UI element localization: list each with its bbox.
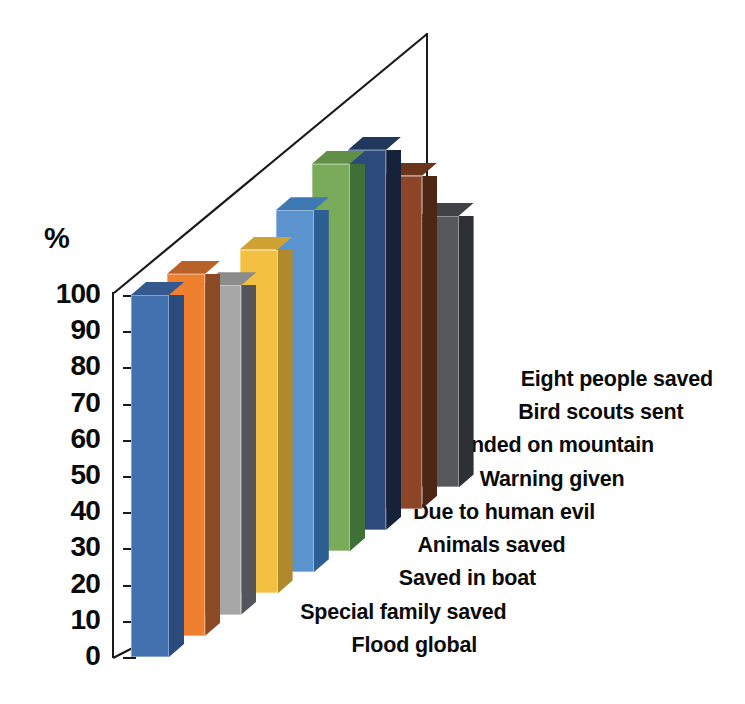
bar-top-face xyxy=(167,261,220,274)
bar-side-face xyxy=(169,295,184,657)
category-label: Due to human evil xyxy=(413,500,595,525)
bar-side-face xyxy=(314,210,329,572)
y-axis-tick-label: 50 xyxy=(22,461,100,489)
y-axis-tick-label: 40 xyxy=(22,497,100,525)
category-label: Eight people saved xyxy=(521,367,713,392)
y-axis-tick-label: 20 xyxy=(22,570,100,598)
bar-side-face xyxy=(459,216,474,488)
bar-front-face xyxy=(131,295,169,657)
bar-top-face xyxy=(348,137,401,150)
bar-side-face xyxy=(241,285,256,614)
category-label: Special family saved xyxy=(300,600,506,625)
category-label: Animals saved xyxy=(418,533,566,558)
category-label: Saved in boat xyxy=(399,566,536,591)
y-axis-tick-mark xyxy=(123,657,136,659)
bar-side-face xyxy=(278,250,293,594)
bar-side-face xyxy=(386,150,401,530)
y-axis-tick-group: 1009080706050403020100 xyxy=(22,0,100,704)
y-axis-tick-label: 100 xyxy=(22,280,100,308)
category-label: Warning given xyxy=(480,467,625,492)
bar-side-face xyxy=(205,274,220,636)
bar-side-face xyxy=(422,176,437,509)
y-axis-tick-label: 60 xyxy=(22,425,100,453)
y-axis-tick-label: 80 xyxy=(22,352,100,380)
bar-side-face xyxy=(350,164,365,551)
y-axis-tick-label: 30 xyxy=(22,533,100,561)
bar-column[interactable] xyxy=(131,295,169,657)
category-label: Landed on mountain xyxy=(446,433,654,458)
y-axis-tick-label: 0 xyxy=(22,642,100,670)
category-label: Flood global xyxy=(352,633,477,658)
y-axis-tick-label: 90 xyxy=(22,316,100,344)
y-axis-tick-label: 70 xyxy=(22,389,100,417)
chart-canvas: % 1009080706050403020100 Flood globalSpe… xyxy=(0,0,745,704)
y-axis-tick-label: 10 xyxy=(22,606,100,634)
category-label: Bird scouts sent xyxy=(518,400,683,425)
y-axis-line xyxy=(112,292,114,658)
